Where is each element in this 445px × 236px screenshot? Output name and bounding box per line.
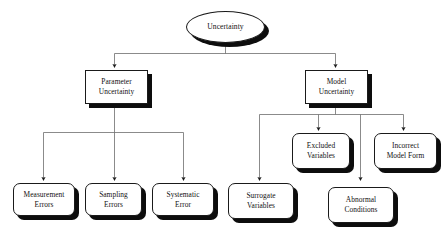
node-sampling-errors[interactable]: Sampling Errors bbox=[85, 183, 142, 216]
abnormal-conditions-line2: Conditions bbox=[345, 205, 378, 214]
measurement-errors-line2: Errors bbox=[35, 200, 54, 209]
incorrect-model-form-line2: Model Form bbox=[387, 151, 425, 160]
node-measurement-errors[interactable]: Measurement Errors bbox=[13, 183, 75, 216]
systematic-error-line2: Error bbox=[175, 200, 191, 209]
surrogate-variables-line1: Surrogate bbox=[246, 191, 275, 200]
node-surrogate-variables[interactable]: Surrogate Variables bbox=[228, 183, 294, 219]
sampling-errors-line2: Errors bbox=[104, 200, 123, 209]
node-model-uncertainty[interactable]: Model Uncertainty bbox=[305, 70, 368, 104]
model-uncertainty-line1: Model bbox=[327, 77, 347, 86]
node-abnormal-conditions[interactable]: Abnormal Conditions bbox=[328, 187, 394, 223]
node-uncertainty-label: Uncertainty bbox=[205, 22, 245, 32]
model-uncertainty-line2: Uncertainty bbox=[319, 87, 354, 96]
abnormal-conditions-line1: Abnormal bbox=[346, 195, 376, 204]
node-parameter-uncertainty[interactable]: Parameter Uncertainty bbox=[85, 70, 148, 104]
node-uncertainty[interactable]: Uncertainty bbox=[186, 11, 265, 43]
parameter-uncertainty-line1: Parameter bbox=[101, 77, 131, 86]
excluded-variables-line2: Variables bbox=[307, 151, 335, 160]
node-excluded-variables[interactable]: Excluded Variables bbox=[292, 133, 350, 169]
incorrect-model-form-line1: Incorrect bbox=[392, 141, 419, 150]
node-incorrect-model-form[interactable]: Incorrect Model Form bbox=[374, 133, 437, 169]
surrogate-variables-line2: Variables bbox=[247, 201, 275, 210]
node-systematic-error[interactable]: Systematic Error bbox=[152, 183, 214, 216]
measurement-errors-line1: Measurement bbox=[24, 190, 65, 199]
excluded-variables-line1: Excluded bbox=[307, 141, 335, 150]
parameter-uncertainty-line2: Uncertainty bbox=[99, 87, 134, 96]
sampling-errors-line1: Sampling bbox=[99, 190, 128, 199]
systematic-error-line1: Systematic bbox=[167, 190, 200, 199]
diagram-canvas: Uncertainty Parameter Uncertainty Model … bbox=[0, 0, 445, 236]
